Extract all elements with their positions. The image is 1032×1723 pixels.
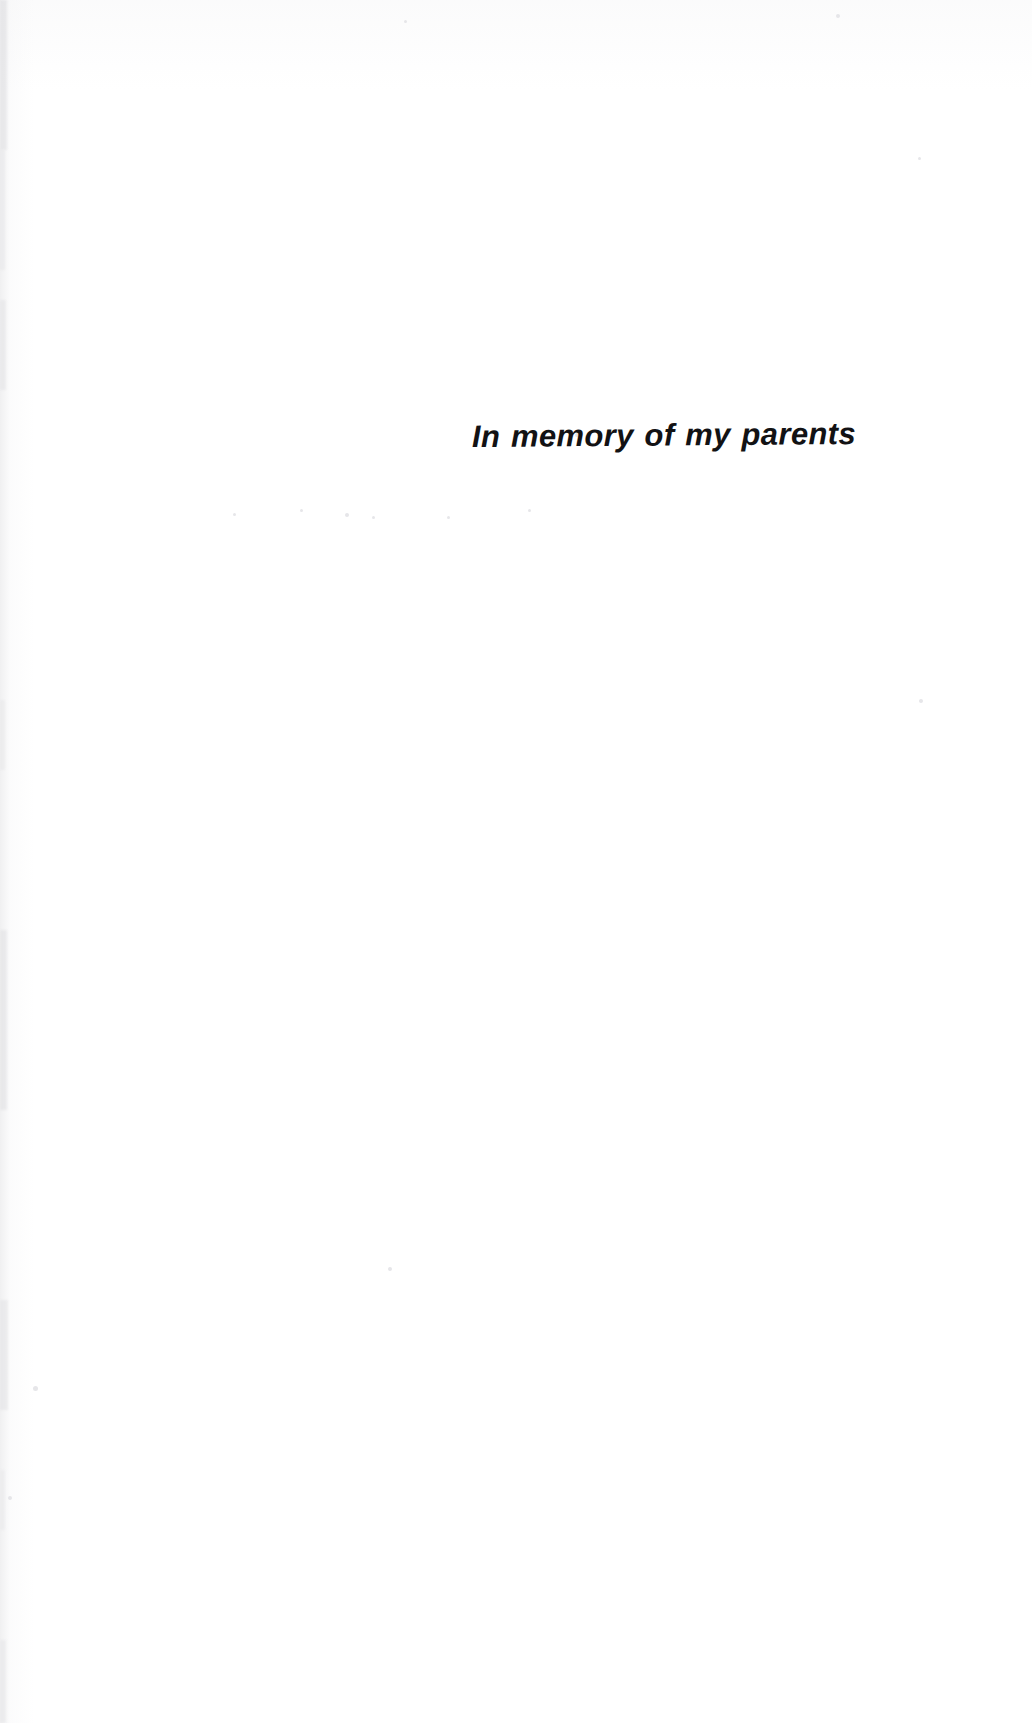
scan-edge-mark	[0, 1470, 5, 1530]
scan-edge-mark	[0, 1300, 8, 1410]
scan-speck	[233, 513, 236, 516]
scan-speck	[404, 20, 407, 23]
scan-edge-mark	[0, 1640, 6, 1723]
dedication-text: In memory of my parents	[472, 416, 856, 456]
scan-speck	[8, 1496, 12, 1500]
dedication-page: In memory of my parents	[0, 0, 1032, 1723]
scan-edge-mark	[0, 700, 5, 770]
scan-speck	[918, 157, 921, 160]
scan-edge-mark	[0, 150, 5, 270]
scan-edge-mark	[0, 300, 6, 390]
scan-edge-mark	[0, 0, 7, 150]
scan-speck	[447, 516, 450, 519]
scan-edge-artifact	[0, 0, 26, 1723]
scan-edge-mark	[0, 930, 7, 1110]
scan-speck	[372, 516, 375, 519]
scan-speck	[919, 699, 923, 703]
scan-speck	[345, 513, 349, 517]
scan-speck	[388, 1267, 392, 1271]
dedication-block: In memory of my parents	[0, 416, 856, 453]
paper-texture	[0, 0, 1032, 1723]
scan-speck	[528, 509, 531, 512]
scan-speck	[836, 14, 840, 18]
scan-speck	[300, 509, 303, 512]
scan-speck	[33, 1386, 38, 1391]
